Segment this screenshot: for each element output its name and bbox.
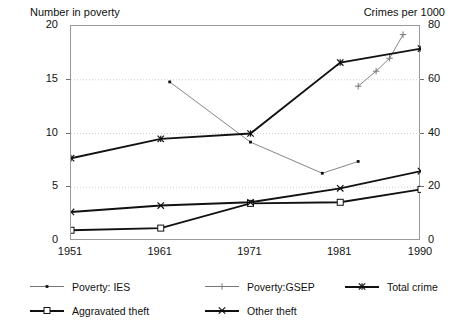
right-tick-mark [420, 79, 424, 80]
right-tick-mark [420, 186, 424, 187]
legend-label: Total crime [387, 281, 438, 293]
series-other-theft [71, 168, 421, 215]
legend-item[interactable]: Other theft [205, 301, 297, 321]
legend-key-asterisk-icon [345, 281, 379, 293]
x-tick-label: 1971 [237, 245, 261, 257]
x-tick-label: 1990 [408, 245, 432, 257]
left-tick-label: 0 [28, 233, 58, 245]
series-aggravated-theft [71, 186, 421, 233]
series-poverty-ies [168, 81, 359, 175]
legend-item[interactable]: Poverty:GSEP [205, 277, 315, 297]
right-tick-label: 0 [428, 233, 434, 245]
x-tick-label: 1951 [58, 245, 82, 257]
left-tick-mark [66, 79, 70, 80]
left-tick-label: 15 [28, 72, 58, 84]
series-line [170, 82, 358, 173]
x-tick-label: 1981 [327, 245, 351, 257]
data-point-marker [249, 141, 252, 144]
data-point-marker [400, 31, 406, 37]
legend-item[interactable]: Poverty: IES [30, 277, 130, 297]
right-tick-label: 60 [428, 72, 440, 84]
chart-container: Number in poverty Crimes per 1000 051015… [0, 0, 453, 335]
x-tick-label: 1961 [147, 245, 171, 257]
plot-svg [71, 26, 421, 241]
left-axis-title: Number in poverty [30, 6, 120, 18]
left-tick-label: 20 [28, 18, 58, 30]
data-point-marker [219, 283, 225, 289]
legend-item[interactable]: Aggravated theft [30, 301, 149, 321]
data-point-marker [418, 186, 421, 192]
data-point-marker [357, 160, 360, 163]
data-point-marker [321, 172, 324, 175]
series-poverty-gsep [355, 31, 406, 89]
legend-label: Other theft [247, 305, 297, 317]
data-point-marker [158, 225, 164, 231]
left-tick-mark [66, 133, 70, 134]
legend-key-dot-icon [30, 281, 64, 293]
series-line [358, 35, 403, 87]
legend-label: Poverty:GSEP [247, 281, 315, 293]
chart-legend: Poverty: IESPoverty:GSEPTotal crimeAggra… [0, 277, 453, 325]
right-tick-label: 80 [428, 18, 440, 30]
left-tick-mark [66, 186, 70, 187]
series-line [71, 49, 421, 159]
data-point-marker [168, 81, 171, 84]
series-line [71, 171, 421, 212]
data-point-marker [71, 227, 74, 233]
legend-item[interactable]: Total crime [345, 277, 438, 297]
series-line [71, 189, 421, 230]
legend-key-plus-icon [205, 281, 239, 293]
right-tick-label: 20 [428, 179, 440, 191]
plot-area [70, 25, 420, 240]
legend-key-square-icon [30, 305, 64, 317]
right-tick-mark [420, 133, 424, 134]
data-point-marker [44, 308, 50, 314]
legend-key-cross-icon [205, 305, 239, 317]
series-total-crime [71, 45, 421, 161]
data-point-marker [46, 285, 49, 288]
left-tick-label: 5 [28, 179, 58, 191]
right-axis-title: Crimes per 1000 [364, 6, 445, 18]
data-point-marker [337, 199, 343, 205]
left-tick-label: 10 [28, 126, 58, 138]
data-point-marker [359, 283, 365, 289]
legend-label: Aggravated theft [72, 305, 149, 317]
data-point-marker [219, 307, 225, 313]
legend-label: Poverty: IES [72, 281, 130, 293]
right-tick-label: 40 [428, 126, 440, 138]
